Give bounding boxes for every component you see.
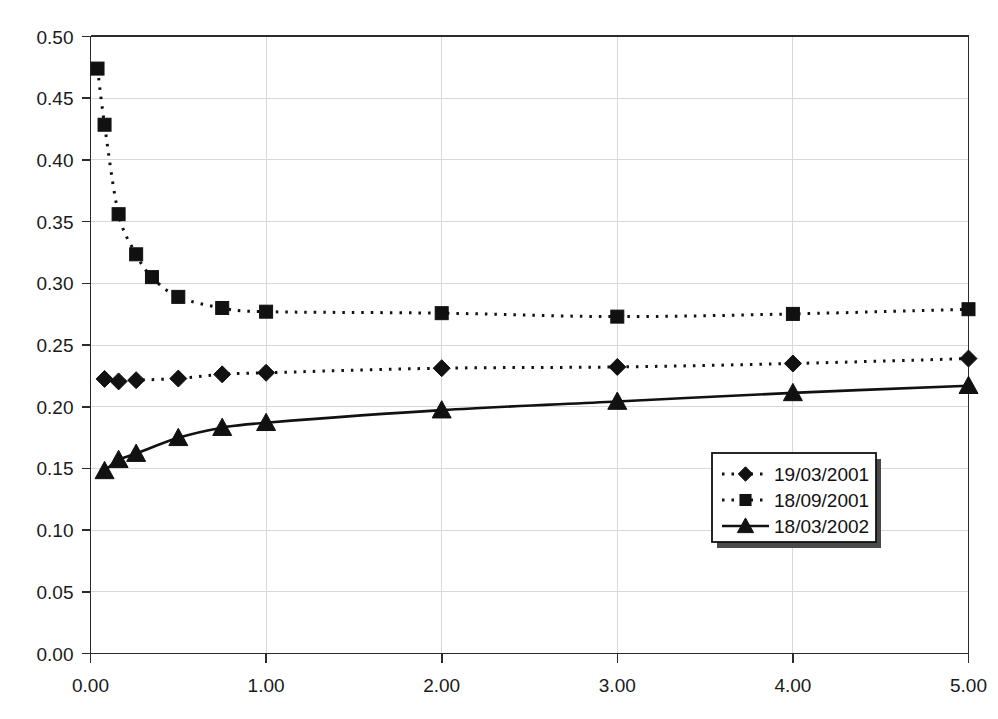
series-line [105, 359, 969, 382]
diamond-marker [128, 372, 145, 389]
square-marker [112, 208, 125, 221]
x-axis-tick-label: 1.00 [248, 675, 285, 696]
square-marker [786, 307, 799, 320]
triangle-marker [109, 450, 128, 467]
diamond-marker [110, 373, 127, 390]
y-axis-tick-label: 0.45 [37, 88, 74, 109]
square-marker [172, 290, 185, 303]
y-axis-tick-label: 0.05 [37, 582, 74, 603]
legend-item-label: 18/09/2001 [774, 490, 869, 511]
y-axis-tick-label: 0.50 [37, 27, 74, 48]
diamond-marker [960, 350, 977, 367]
diamond-marker [96, 370, 113, 387]
diamond-marker [433, 360, 450, 377]
gridlines-group [91, 37, 969, 654]
y-axis-tick-label: 0.10 [37, 520, 74, 541]
x-axis-tick-labels: 0.001.002.003.004.005.00 [72, 675, 987, 696]
y-axis-tick-label: 0.25 [37, 335, 74, 356]
series-group [91, 62, 978, 479]
x-axis-tick-label: 4.00 [774, 675, 811, 696]
x-axis-tick-label: 5.00 [950, 675, 987, 696]
square-marker [98, 118, 111, 131]
triangle-marker [127, 444, 146, 461]
y-axis-tick-label: 0.20 [37, 397, 74, 418]
legend-item-label: 19/03/2001 [774, 464, 869, 485]
y-axis-tick-labels: 0.000.050.100.150.200.250.300.350.400.45… [37, 27, 74, 665]
square-marker [260, 305, 273, 318]
tick-marks-group [82, 37, 969, 663]
chart-container: 0.000.050.100.150.200.250.300.350.400.45… [0, 0, 998, 719]
diamond-marker [784, 355, 801, 372]
diamond-marker [170, 370, 187, 387]
diamond-marker [258, 364, 275, 381]
series-line [98, 69, 969, 317]
diamond-marker [609, 358, 626, 375]
square-marker [145, 271, 158, 284]
data-series [96, 350, 977, 390]
data-series [91, 62, 975, 323]
y-axis-tick-label: 0.00 [37, 644, 74, 665]
x-axis-tick-label: 2.00 [423, 675, 460, 696]
square-marker [130, 248, 143, 261]
legend[interactable]: 19/03/200118/09/200118/03/2002 [712, 453, 881, 548]
y-axis-tick-label: 0.30 [37, 273, 74, 294]
x-axis-tick-label: 0.00 [72, 675, 109, 696]
x-axis-tick-label: 3.00 [599, 675, 636, 696]
diamond-marker [214, 366, 231, 383]
square-marker [216, 301, 229, 314]
y-axis-tick-label: 0.40 [37, 150, 74, 171]
legend-item-label: 18/03/2002 [774, 516, 869, 537]
square-marker [91, 62, 104, 75]
y-axis-tick-label: 0.35 [37, 212, 74, 233]
square-icon [740, 494, 751, 505]
square-marker [611, 310, 624, 323]
line-chart: 0.000.050.100.150.200.250.300.350.400.45… [0, 0, 998, 719]
y-axis-tick-label: 0.15 [37, 458, 74, 479]
square-marker [435, 307, 448, 320]
square-marker [962, 303, 975, 316]
